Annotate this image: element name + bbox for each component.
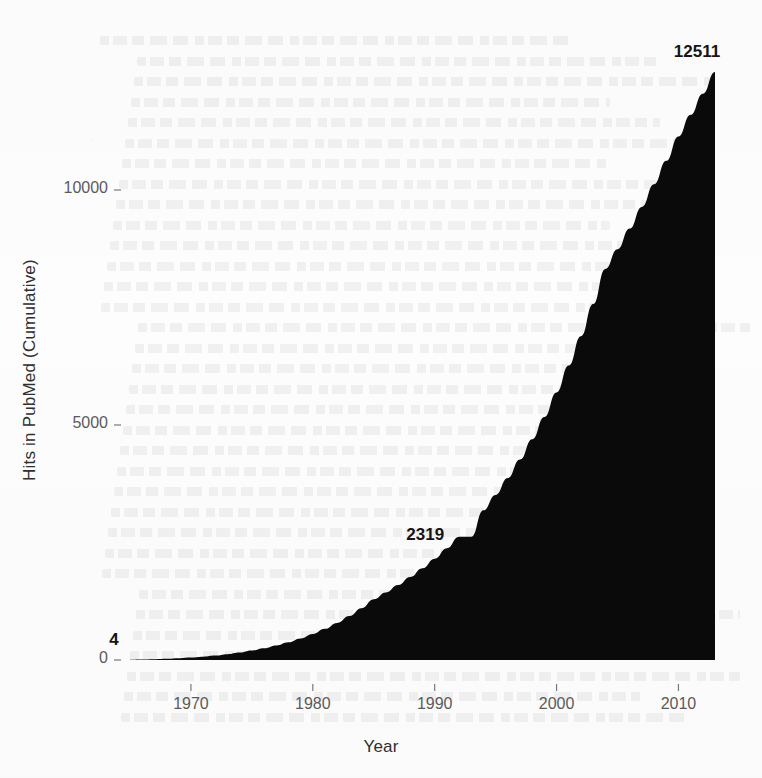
x-tick-label: 1980	[273, 695, 353, 713]
chart-figure: Hits in PubMed (Cumulative) Year 1970198…	[0, 0, 762, 778]
area-chart-plot	[0, 0, 762, 778]
y-tick-label: 10000	[0, 179, 108, 197]
y-axis-tick-marks	[114, 190, 121, 660]
x-tick-label: 2010	[638, 695, 718, 713]
y-tick-label: 5000	[0, 414, 108, 432]
x-axis-tick-marks	[191, 684, 679, 691]
x-tick-label: 1990	[395, 695, 475, 713]
data-point-label: 4	[84, 630, 144, 650]
data-point-label: 12511	[667, 42, 727, 62]
x-tick-label: 1970	[151, 695, 231, 713]
y-tick-label: 0	[0, 649, 108, 667]
y-axis-title: Hits in PubMed (Cumulative)	[20, 135, 40, 605]
cumulative-area-path	[130, 72, 715, 660]
data-point-label: 2319	[395, 525, 455, 545]
x-tick-label: 2000	[517, 695, 597, 713]
x-axis-title: Year	[0, 737, 762, 757]
